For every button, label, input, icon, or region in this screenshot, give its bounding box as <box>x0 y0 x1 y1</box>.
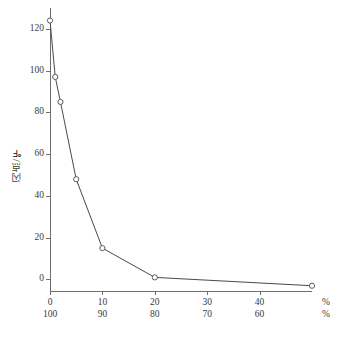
chart-figure: 闪点/℉ 020406080100120 % 汽油 010203040 % 煤油… <box>0 0 340 339</box>
plot-area: 020406080100120 <box>50 8 312 292</box>
x-tick-label-gasoline: 10 <box>98 296 108 308</box>
data-point-marker <box>58 99 63 104</box>
x-axis-labels-gasoline: % 汽油 010203040 <box>50 296 312 308</box>
data-point-marker <box>309 283 314 288</box>
x-tick-label-kerosene: 80 <box>150 308 160 320</box>
data-point-marker <box>100 246 105 251</box>
data-point-marker <box>74 177 79 182</box>
y-tick-label: 20 <box>35 233 45 243</box>
series-markers <box>47 18 314 288</box>
x-tick-label-gasoline: 0 <box>48 296 53 308</box>
x-tick-label-gasoline: 40 <box>255 296 265 308</box>
x-axis-labels-kerosene: % 煤油 10090807060 <box>50 308 312 320</box>
y-tick-label: 120 <box>30 24 44 34</box>
y-tick-label: 40 <box>35 191 45 201</box>
unit-percent-gasoline: % <box>322 296 330 308</box>
x-tick-label-kerosene: 90 <box>98 308 108 320</box>
y-tick-label: 100 <box>30 66 44 76</box>
y-axis-title: 闪点/℉ <box>10 148 24 182</box>
data-point-marker <box>53 74 58 79</box>
y-tick-label: 80 <box>35 108 45 118</box>
y-tick-label: 0 <box>39 275 44 285</box>
x-tick-label-gasoline: 30 <box>202 296 212 308</box>
unit-percent-kerosene: % <box>322 308 330 320</box>
x-tick-label-gasoline: 20 <box>150 296 160 308</box>
series-line <box>50 21 312 286</box>
data-series <box>50 8 312 292</box>
x-tick-label-kerosene: 70 <box>202 308 212 320</box>
y-tick-label: 60 <box>35 149 45 159</box>
x-tick-label-kerosene: 60 <box>255 308 265 320</box>
data-point-marker <box>152 275 157 280</box>
data-point-marker <box>47 18 52 23</box>
x-tick-label-kerosene: 100 <box>43 308 57 320</box>
